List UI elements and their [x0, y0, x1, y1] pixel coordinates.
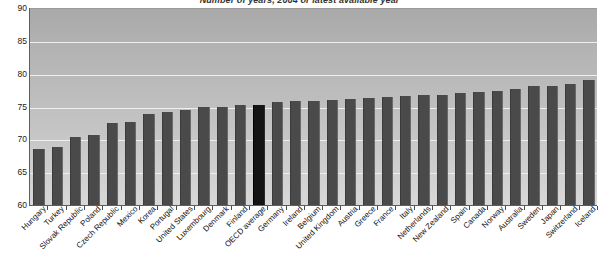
y-axis-tick-label: 90	[1, 4, 27, 13]
x-axis-tick	[84, 206, 85, 210]
y-axis-tick-label: 75	[1, 103, 27, 112]
x-axis-tick	[322, 206, 323, 210]
x-axis-tick	[542, 206, 543, 210]
x-axis-tick	[414, 206, 415, 210]
x-axis-tick	[560, 206, 561, 210]
bar	[290, 101, 301, 205]
x-axis-tick	[432, 206, 433, 210]
y-axis-tick-label: 85	[1, 37, 27, 46]
bar	[345, 99, 356, 205]
x-axis-tick	[395, 206, 396, 210]
bar	[418, 95, 429, 205]
x-axis-tick	[597, 206, 598, 210]
bar	[363, 98, 374, 205]
bar	[492, 91, 503, 205]
x-axis-tick	[66, 206, 67, 210]
x-axis-tick	[304, 206, 305, 210]
x-axis-tick	[157, 206, 158, 210]
y-axis-tick-label: 70	[1, 135, 27, 144]
bar	[565, 84, 576, 205]
x-axis-tick	[340, 206, 341, 210]
bar	[547, 86, 558, 206]
bar	[455, 93, 466, 205]
x-axis-tick	[139, 206, 140, 210]
x-axis-tick	[249, 206, 250, 210]
x-axis-tick	[267, 206, 268, 210]
bar-series	[30, 9, 597, 205]
x-axis-tick	[469, 206, 470, 210]
x-axis-tick	[212, 206, 213, 210]
bar	[437, 95, 448, 205]
bar	[473, 92, 484, 205]
x-axis-tick	[524, 206, 525, 210]
y-axis-line	[29, 8, 30, 206]
bar	[125, 122, 136, 205]
bar	[400, 96, 411, 205]
chart-container: Number of years, 2004 or latest availabl…	[0, 0, 599, 276]
bar	[198, 107, 209, 205]
x-axis-tick	[487, 206, 488, 210]
bar	[510, 89, 521, 205]
x-axis-tick	[47, 206, 48, 210]
bar	[143, 114, 154, 205]
x-axis-tick	[359, 206, 360, 210]
bar	[235, 105, 246, 205]
bar	[70, 137, 81, 205]
bar	[33, 149, 44, 205]
bar	[88, 135, 99, 205]
bar	[162, 112, 173, 205]
bar	[382, 97, 393, 205]
bar	[217, 107, 228, 206]
x-axis-tick	[450, 206, 451, 210]
y-axis-tick-label: 65	[1, 168, 27, 177]
x-axis-tick	[579, 206, 580, 210]
bar	[272, 102, 283, 205]
bar	[583, 80, 594, 205]
chart-title: Number of years, 2004 or latest availabl…	[0, 0, 599, 5]
bar	[327, 100, 338, 205]
plot-area	[29, 8, 597, 205]
x-axis-tick	[286, 206, 287, 210]
x-axis-tick	[377, 206, 378, 210]
bar	[52, 147, 63, 205]
x-axis-tick	[505, 206, 506, 210]
bar	[107, 123, 118, 205]
x-axis-tick	[121, 206, 122, 210]
x-axis-tick	[231, 206, 232, 210]
bar	[308, 101, 319, 205]
x-axis-tick	[176, 206, 177, 210]
x-axis-tick	[102, 206, 103, 210]
x-axis-tick	[194, 206, 195, 210]
x-axis-labels: HungaryTurkeySlovak RepublicPolandCzech …	[0, 205, 599, 276]
bar	[528, 86, 539, 205]
bar	[180, 110, 191, 205]
y-axis-tick-label: 80	[1, 70, 27, 79]
bar	[253, 105, 264, 205]
